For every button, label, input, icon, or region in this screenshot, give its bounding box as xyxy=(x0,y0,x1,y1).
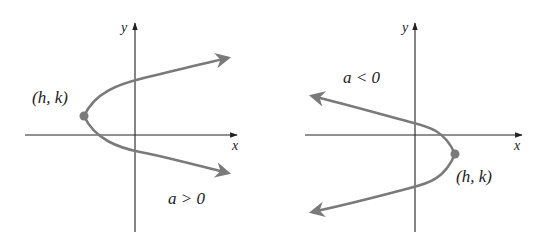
y-axis-label: y xyxy=(119,20,128,35)
condition-label: a < 0 xyxy=(343,68,380,87)
vertex-label: (h, k) xyxy=(32,88,68,107)
right-graph: y x (h, k) a < 0 xyxy=(305,20,522,232)
y-axis-label: y xyxy=(400,20,409,35)
x-axis-label: x xyxy=(231,138,239,153)
left-graph: y x (h, k) a > 0 xyxy=(25,20,239,232)
parabola-lower-branch xyxy=(84,116,228,173)
vertex-label: (h, k) xyxy=(456,167,492,186)
vertex-point xyxy=(80,112,89,121)
parabola-upper-branch xyxy=(84,58,228,116)
vertex-point xyxy=(451,150,460,159)
parabola-diagram: y x (h, k) a > 0 y x (h, k) a < 0 xyxy=(0,0,546,243)
parabola-lower-branch xyxy=(312,154,455,212)
parabola-upper-branch xyxy=(312,96,455,154)
x-axis-label: x xyxy=(513,138,521,153)
condition-label: a > 0 xyxy=(168,189,205,208)
